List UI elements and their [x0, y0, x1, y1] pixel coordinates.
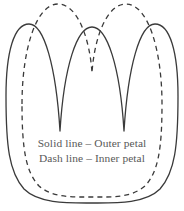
petal-diagram-figure: Solid line – Outer petal Dash line – Inn…: [0, 0, 184, 211]
outer-petal-solid-path: [6, 24, 178, 203]
petal-diagram-svg: [0, 0, 184, 211]
outer-petal-solid-group: [6, 24, 178, 203]
inner-petal-dashed-path: [22, 4, 162, 197]
inner-petal-dashed-group: [22, 4, 162, 197]
